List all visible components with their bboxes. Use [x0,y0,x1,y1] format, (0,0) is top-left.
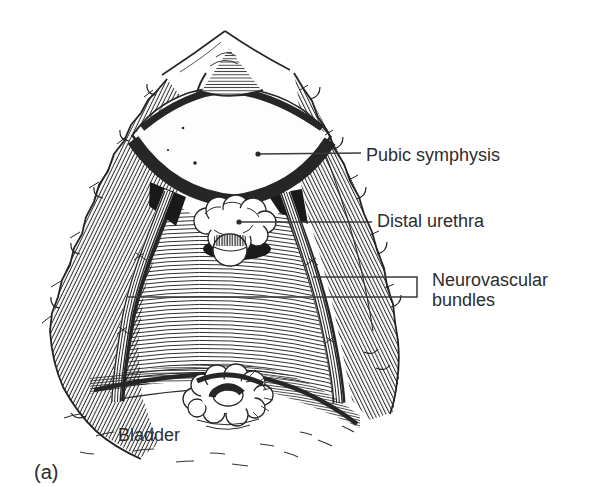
label-distal-urethra: Distal urethra [377,211,485,231]
leader-dot-distal-urethra [236,219,241,224]
leader-dot-pubic-symphysis [255,151,260,156]
label-bladder: Bladder [118,425,180,445]
label-neurovascular-line2: bundles [432,290,495,310]
urethra-tube [213,234,247,266]
figure-panel: Pubic symphysis Distal urethra Neurovasc… [0,0,596,486]
label-pubic-symphysis: Pubic symphysis [366,145,500,165]
surgical-field-illustration: Pubic symphysis Distal urethra Neurovasc… [0,0,596,486]
label-neurovascular-line1: Neurovascular [432,270,548,290]
leader-pubic-symphysis [258,153,361,154]
panel-caption: (a) [34,461,58,483]
urethra-cut-striations [214,235,246,246]
